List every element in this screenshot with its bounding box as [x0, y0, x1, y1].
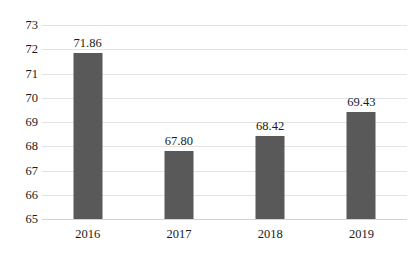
x-axis-tick-label: 2016: [42, 228, 133, 241]
y-axis-tick-label: 68: [4, 140, 38, 153]
y-axis-tick-label: 70: [4, 92, 38, 105]
bar-group: 68.42: [225, 25, 316, 219]
y-axis-tick-label: 71: [4, 68, 38, 81]
bar[interactable]: [347, 112, 376, 219]
x-axis-tick-label: 2018: [225, 228, 316, 241]
y-axis-tick-label: 67: [4, 165, 38, 178]
bar-group: 67.80: [133, 25, 224, 219]
bar[interactable]: [164, 151, 193, 219]
bar-group: 71.86: [42, 25, 133, 219]
x-axis-tick-label: 2019: [316, 228, 407, 241]
bar-value-label: 68.42: [256, 120, 284, 133]
y-axis: 737271706968676665: [0, 25, 38, 219]
bar-group: 69.43: [316, 25, 407, 219]
bar-value-label: 69.43: [347, 96, 375, 109]
y-axis-tick-label: 65: [4, 213, 38, 226]
x-axis-tick-label: 2017: [133, 228, 224, 241]
y-axis-tick-label: 66: [4, 189, 38, 202]
y-axis-tick-label: 69: [4, 116, 38, 129]
y-axis-tick-label: 72: [4, 43, 38, 56]
bar[interactable]: [73, 53, 102, 219]
bar[interactable]: [256, 136, 285, 219]
bar-chart: 737271706968676665 71.8667.8068.4269.43 …: [0, 0, 420, 263]
gridline: [42, 219, 407, 220]
y-axis-tick-label: 73: [4, 19, 38, 32]
bar-value-label: 71.86: [74, 37, 102, 50]
plot-area: 71.8667.8068.4269.43: [42, 25, 407, 219]
bar-value-label: 67.80: [165, 135, 193, 148]
x-axis: 2016201720182019: [42, 228, 407, 248]
